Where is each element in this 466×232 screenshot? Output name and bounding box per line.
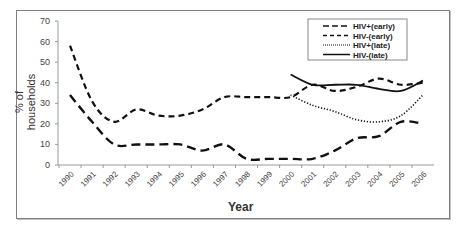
y-tick-label: 40 <box>40 78 50 88</box>
x-tick-label: 1999 <box>255 169 274 188</box>
x-tick-label: 1998 <box>233 169 252 188</box>
y-tick-label: 10 <box>40 139 50 149</box>
y-tick-label: 50 <box>40 57 50 67</box>
y-tick-label: 20 <box>40 119 50 129</box>
x-tick-label: 2000 <box>277 169 296 188</box>
x-tick-label: 1996 <box>189 169 208 188</box>
x-tick-label: 2002 <box>321 169 340 188</box>
x-tick-label: 2001 <box>299 169 318 188</box>
x-tick-label: 2003 <box>344 169 363 188</box>
legend-entry: HIV-(late) <box>353 51 388 60</box>
x-tick-label: 2005 <box>388 169 407 188</box>
y-axis-label: % of households <box>13 72 37 132</box>
x-axis-label: Year <box>228 200 253 214</box>
x-tick-label: 2006 <box>410 169 429 188</box>
y-tick-label: 70 <box>40 16 50 26</box>
series-line-hiv-early- <box>70 95 423 160</box>
x-tick-label: 1992 <box>101 169 120 188</box>
legend-entry: HIV+(early) <box>353 22 395 31</box>
x-tick-label: 1994 <box>145 169 164 188</box>
line-chart: 0102030405060701990199119921993199419951… <box>0 0 466 232</box>
x-tick-label: 1995 <box>167 169 186 188</box>
legend: HIV+(early)HIV-(early)HIV+(late)HIV-(lat… <box>308 19 407 60</box>
series-line-hiv-late- <box>291 74 423 91</box>
x-tick-label: 1990 <box>57 169 76 188</box>
x-tick-label: 2004 <box>366 169 385 188</box>
series-line-hiv-late- <box>291 95 423 122</box>
legend-entry: HIV-(early) <box>353 32 393 41</box>
y-tick-label: 30 <box>40 98 50 108</box>
legend-entry: HIV+(late) <box>353 41 390 50</box>
y-tick-label: 0 <box>45 160 50 170</box>
y-tick-label: 60 <box>40 37 50 47</box>
x-tick-label: 1991 <box>79 169 98 188</box>
x-tick-label: 1997 <box>211 169 230 188</box>
x-tick-label: 1993 <box>123 169 142 188</box>
